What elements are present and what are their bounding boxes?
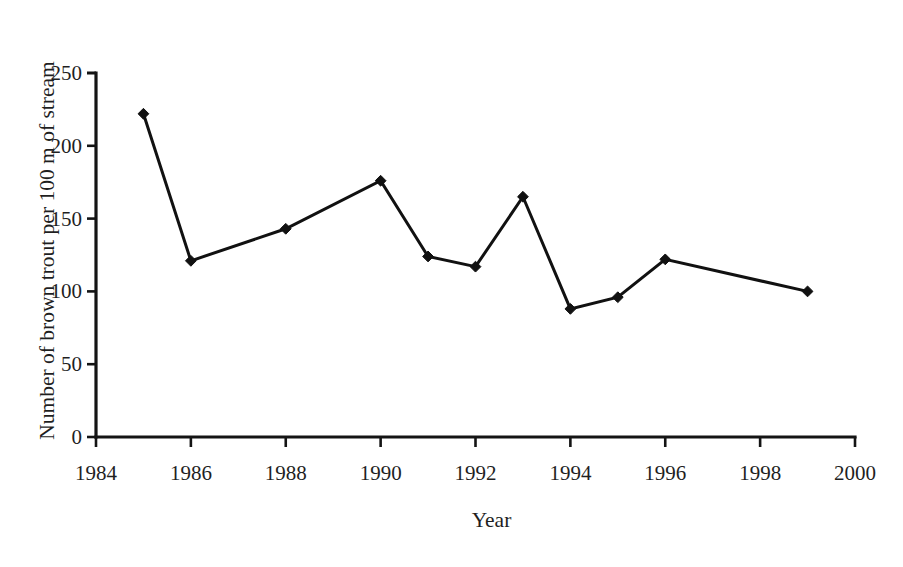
data-point-marker [280, 223, 291, 234]
x-axis-title-wrapper: Year [0, 508, 903, 533]
chart-axes [87, 73, 855, 447]
data-point-marker [802, 286, 813, 297]
data-point-marker [138, 108, 149, 119]
x-axis-tick-label: 1984 [75, 463, 117, 484]
x-axis-tick-label: 1990 [360, 463, 402, 484]
x-axis-tick-label: 1996 [644, 463, 686, 484]
series-polyline [143, 114, 807, 309]
x-axis-tick-label: 1988 [265, 463, 307, 484]
y-axis-title: Number of brown trout per 100 m of strea… [35, 41, 60, 461]
x-axis-title: Year [472, 508, 512, 533]
data-point-marker [185, 255, 196, 266]
x-axis-tick-label: 1998 [739, 463, 781, 484]
x-axis-tick-label: 1994 [549, 463, 591, 484]
x-axis-tick-label: 2000 [834, 463, 876, 484]
line-chart-figure: 050100150200250 198419861988199019921994… [0, 0, 903, 567]
x-axis-tick-label: 1986 [170, 463, 212, 484]
x-axis-tick-label: 1992 [455, 463, 497, 484]
data-series-brown-trout [138, 108, 813, 314]
data-point-marker [565, 303, 576, 314]
